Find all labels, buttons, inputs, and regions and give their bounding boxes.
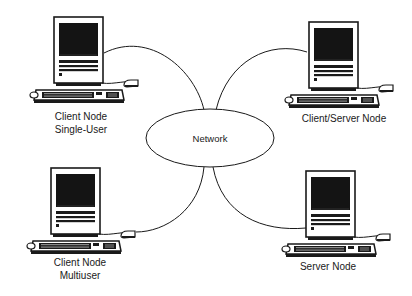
computer-icon-client-single (30, 17, 138, 103)
edge-client-multi (136, 167, 204, 232)
node-label-client-single: Client Node Single-User (55, 110, 107, 136)
node-label-line2: Multiuser (54, 269, 106, 282)
node-label-line1: Client Node (55, 110, 107, 123)
node-label-line1: Client Node (54, 256, 106, 269)
network-diagram (0, 0, 412, 296)
node-label-server: Server Node (300, 260, 356, 273)
edge-server (213, 167, 306, 229)
computer-icon-client-multi (27, 168, 135, 254)
node-label-client-server: Client/Server Node (302, 112, 386, 125)
computer-icon-server (282, 171, 390, 257)
node-label-client-multi: Client Node Multiuser (54, 256, 106, 282)
node-label-line1: Server Node (300, 260, 356, 273)
node-label-line2: Single-User (55, 123, 107, 136)
computer-icon-client-server (285, 22, 393, 108)
node-label-line1: Client/Server Node (302, 112, 386, 125)
network-label: Network (193, 133, 228, 144)
